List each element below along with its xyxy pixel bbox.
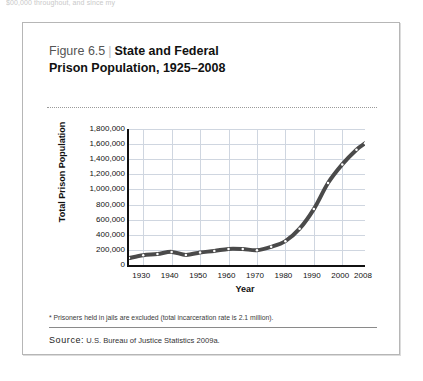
x-tick-label: 1970 (246, 271, 264, 281)
data-point (313, 208, 316, 211)
figure-number: Figure 6.5 (49, 44, 105, 58)
x-tick-label: 2008 (354, 271, 372, 281)
series-line (129, 129, 365, 265)
plot-area (127, 129, 365, 267)
x-tick-label: 2000 (331, 271, 349, 281)
title-dotted-rule (47, 107, 377, 109)
chart: Total Prison Population 1,800,0001,600,0… (47, 119, 379, 299)
y-axis-ticks: 1,800,0001,600,0001,400,0001,200,0001,00… (69, 129, 125, 265)
figure-footnote: * Prisoners held in jails are excluded (… (49, 313, 379, 322)
x-tick-label: 1930 (132, 271, 150, 281)
data-point (213, 250, 216, 253)
y-tick-label: 1,600,000 (69, 140, 125, 148)
data-point (327, 182, 330, 185)
data-point (170, 251, 173, 254)
data-point (142, 254, 145, 257)
y-tick-label: 800,000 (69, 201, 125, 209)
data-point (341, 163, 344, 166)
x-tick-label: 1980 (274, 271, 292, 281)
figure-title-line1: State and Federal (115, 44, 219, 58)
data-point (156, 253, 159, 256)
x-tick-label: 1960 (218, 271, 236, 281)
data-point (227, 248, 230, 251)
x-axis-ticks: 193019401950196019701980199020002008 (127, 271, 363, 283)
data-point (241, 248, 244, 251)
figure-card: Figure 6.5|State and Federal Prison Popu… (22, 22, 400, 355)
x-tick-label: 1950 (189, 271, 207, 281)
figure-source: Source: U.S. Bureau of Justice Statistic… (49, 335, 379, 346)
data-point (199, 251, 202, 254)
data-point (355, 148, 358, 151)
data-point (256, 249, 259, 252)
data-point (185, 254, 188, 257)
x-tick-label: 1990 (303, 271, 321, 281)
source-label: Source: (49, 335, 84, 345)
y-tick-label: 1,800,000 (69, 125, 125, 133)
y-tick-label: 600,000 (69, 216, 125, 224)
source-text: U.S. Bureau of Justice Statistics 2009a. (86, 336, 219, 345)
page-cut-text: $00,000 throughout, and since my (6, 0, 306, 7)
title-divider: | (105, 44, 114, 58)
y-tick-label: 200,000 (69, 246, 125, 254)
data-point (298, 227, 301, 230)
y-tick-label: 1,200,000 (69, 170, 125, 178)
figure-title-line2: Prison Population, 1925–2008 (49, 61, 225, 75)
data-point (284, 240, 287, 243)
y-tick-label: 400,000 (69, 231, 125, 239)
source-rule (49, 327, 377, 328)
x-tick-label: 1940 (161, 271, 179, 281)
y-axis-label: Total Prison Population (57, 117, 67, 227)
figure-title: Figure 6.5|State and Federal Prison Popu… (49, 43, 369, 77)
y-tick-label: 1,400,000 (69, 155, 125, 163)
x-axis-label: Year (127, 284, 363, 294)
y-tick-label: 1,000,000 (69, 185, 125, 193)
plot-inner (129, 129, 365, 265)
y-tick-label: 0 (69, 261, 125, 269)
data-point (270, 246, 273, 249)
